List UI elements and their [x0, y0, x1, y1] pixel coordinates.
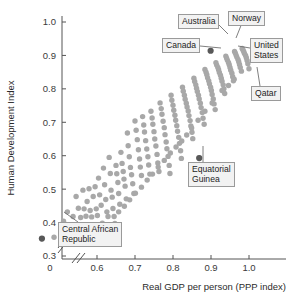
data-point — [118, 150, 123, 155]
data-point — [127, 154, 132, 159]
callout-central-african-republic: Central African Republic — [58, 222, 122, 247]
data-point — [169, 98, 174, 103]
data-point — [201, 122, 206, 127]
data-point — [171, 108, 176, 113]
data-point — [142, 129, 147, 134]
data-point — [239, 68, 244, 73]
data-point — [128, 165, 133, 170]
data-point — [184, 132, 189, 137]
data-point — [108, 171, 113, 176]
data-point — [162, 158, 167, 163]
data-point — [115, 180, 120, 185]
data-point — [162, 132, 167, 137]
callout-canada: Canada — [162, 38, 200, 53]
y-tick-label: 0.5 — [43, 184, 56, 195]
data-point — [121, 169, 126, 174]
data-point — [155, 164, 160, 169]
data-point — [113, 163, 118, 168]
data-point — [162, 125, 167, 130]
data-point — [179, 156, 184, 161]
data-point — [173, 118, 178, 123]
data-point — [168, 93, 173, 98]
data-point — [127, 197, 132, 202]
callout-qatar: Qatar — [251, 86, 281, 101]
callout-equatorial-guinea: Equatorial Guinea — [188, 162, 235, 187]
data-point — [122, 203, 127, 208]
data-point — [114, 171, 119, 176]
data-point — [97, 192, 102, 197]
data-point — [173, 144, 178, 149]
data-point — [168, 150, 173, 155]
data-point — [102, 182, 107, 187]
data-point — [178, 148, 183, 153]
data-point — [132, 118, 137, 123]
data-point — [136, 147, 141, 152]
data-point — [122, 183, 127, 188]
data-point — [91, 194, 96, 199]
data-point — [119, 161, 124, 166]
data-point — [92, 184, 97, 189]
x-axis-title: Real GDP per person (PPP index) — [142, 281, 286, 292]
data-point — [157, 100, 162, 105]
y-tick-label: 1.0 — [43, 16, 56, 27]
plot-canvas: 0.30.40.50.60.70.80.91.00.60.70.80.91.00… — [0, 0, 292, 297]
y-tick-label: 0.4 — [43, 217, 56, 228]
data-point — [125, 143, 130, 148]
data-point — [110, 206, 115, 211]
data-point — [159, 112, 164, 117]
data-point — [94, 206, 99, 211]
y-tick-label: 0.3 — [43, 250, 56, 261]
data-point — [148, 109, 153, 114]
data-point — [144, 146, 149, 151]
data-point — [84, 199, 89, 204]
x-tick-label: 0.8 — [166, 262, 179, 273]
data-point — [189, 125, 194, 130]
x-tick-label: 1.0 — [242, 262, 255, 273]
data-point — [190, 136, 195, 141]
data-point — [86, 186, 91, 191]
highlight-point — [208, 48, 214, 54]
data-point — [167, 163, 172, 168]
data-point — [153, 143, 158, 148]
data-point — [103, 197, 108, 202]
data-point — [116, 209, 121, 214]
data-point — [139, 184, 144, 189]
data-point — [87, 208, 92, 213]
y-tick-label: 0.7 — [43, 117, 56, 128]
data-point — [195, 118, 200, 123]
callout-australia: Australia — [178, 14, 219, 29]
data-point — [209, 100, 214, 105]
data-point — [187, 118, 192, 123]
data-point — [65, 209, 70, 214]
scatter-chart-figure: 0.30.40.50.60.70.80.91.00.60.70.80.91.00… — [0, 0, 292, 297]
data-point — [105, 214, 110, 219]
data-point — [96, 175, 101, 180]
y-tick-label: 0.6 — [43, 150, 56, 161]
data-point — [160, 119, 165, 124]
highlight-point — [196, 155, 202, 161]
data-point — [151, 129, 156, 134]
data-point — [167, 171, 172, 176]
data-point — [202, 109, 207, 114]
data-point — [125, 130, 130, 135]
data-point — [152, 136, 157, 141]
highlight-point — [39, 236, 45, 242]
data-point — [121, 176, 126, 181]
data-point — [133, 190, 138, 195]
data-point — [141, 122, 146, 127]
data-point — [78, 215, 83, 220]
callout-united-states: United States — [250, 38, 283, 63]
callout-norway: Norway — [228, 11, 265, 26]
data-point — [108, 187, 113, 192]
data-point — [101, 165, 106, 170]
data-point — [159, 106, 164, 111]
x-tick-label: 0.7 — [128, 262, 141, 273]
data-point — [139, 173, 144, 178]
data-point — [106, 155, 111, 160]
data-point — [149, 115, 154, 120]
data-point — [116, 191, 121, 196]
data-point — [145, 154, 150, 159]
data-point — [140, 114, 145, 119]
data-point — [154, 152, 159, 157]
data-point — [172, 113, 177, 118]
